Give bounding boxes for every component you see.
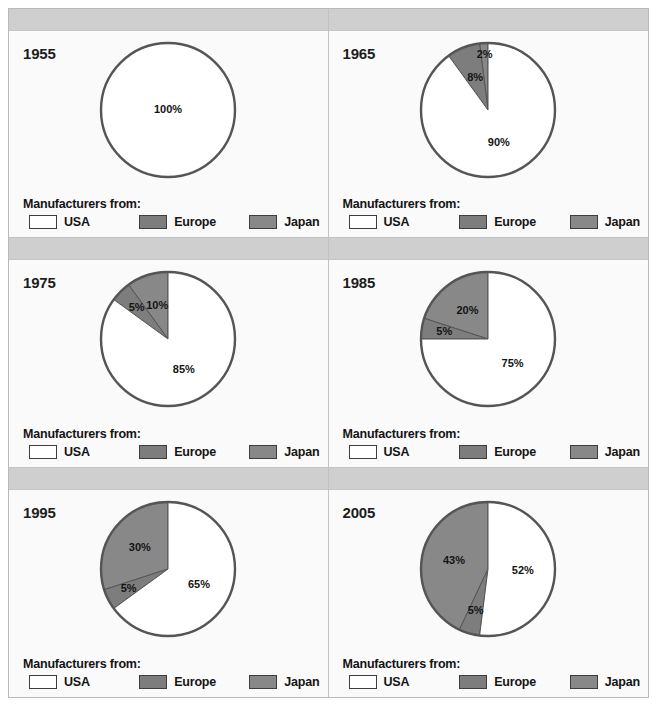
svg-text:10%: 10%: [146, 299, 168, 311]
legend-label-europe: Europe: [174, 215, 216, 229]
pie-chart-1955: 100%: [93, 35, 243, 185]
legend: Manufacturers from: USA Europe Japan: [343, 427, 641, 459]
panel-1965: 1965 2%8%90% Manufacturers from: USA Eur…: [329, 9, 649, 238]
legend: Manufacturers from: USA Europe Japan: [23, 197, 320, 229]
legend: Manufacturers from: USA Europe Japan: [343, 657, 641, 689]
panel-grid: 1955 100% Manufacturers from: USA Europe: [8, 8, 649, 698]
legend-label-usa: USA: [64, 675, 90, 689]
panel-header: [9, 468, 328, 490]
panel-body: 1965 2%8%90% Manufacturers from: USA Eur…: [329, 31, 649, 237]
legend-item-japan: Japan: [249, 215, 319, 229]
legend-label-europe: Europe: [174, 445, 216, 459]
legend-row: USA Europe Japan: [23, 215, 320, 229]
svg-text:75%: 75%: [502, 357, 524, 369]
panel-2005: 2005 43%5%52% Manufacturers from: USA Eu…: [329, 468, 649, 697]
legend-item-usa: USA: [349, 445, 460, 459]
legend-row: USA Europe Japan: [343, 675, 641, 689]
pie-chart-1975: 10%5%85%: [93, 264, 243, 414]
pie-chart-1995: 30%5%65%: [93, 494, 243, 644]
legend-item-europe: Europe: [459, 675, 570, 689]
svg-text:90%: 90%: [488, 136, 510, 148]
panel-1955: 1955 100% Manufacturers from: USA Europe: [9, 9, 329, 238]
panel-year-label: 1955: [23, 45, 56, 62]
panel-year-label: 1995: [23, 504, 56, 521]
legend-label-usa: USA: [64, 445, 90, 459]
legend-swatch-usa: [349, 445, 377, 459]
legend-item-japan: Japan: [249, 675, 319, 689]
legend-swatch-usa: [349, 675, 377, 689]
pie-chart-1985: 20%5%75%: [413, 264, 563, 414]
legend-title: Manufacturers from:: [343, 197, 641, 211]
legend-item-usa: USA: [29, 215, 139, 229]
legend-label-europe: Europe: [494, 445, 536, 459]
legend-item-europe: Europe: [139, 215, 249, 229]
legend-swatch-europe: [139, 215, 167, 229]
legend-label-japan: Japan: [284, 215, 319, 229]
legend-swatch-usa: [29, 445, 57, 459]
svg-text:2%: 2%: [477, 48, 493, 60]
legend-item-usa: USA: [29, 445, 139, 459]
legend-label-japan: Japan: [284, 445, 319, 459]
legend: Manufacturers from: USA Europe Japan: [23, 657, 320, 689]
legend: Manufacturers from: USA Europe Japan: [23, 427, 320, 459]
svg-text:52%: 52%: [512, 564, 534, 576]
svg-text:5%: 5%: [437, 325, 453, 337]
legend-label-usa: USA: [64, 215, 90, 229]
legend-item-europe: Europe: [459, 215, 570, 229]
panel-year-label: 1985: [343, 274, 376, 291]
legend-item-europe: Europe: [139, 445, 249, 459]
legend-item-japan: Japan: [570, 215, 640, 229]
panel-year-label: 1965: [343, 45, 376, 62]
legend-swatch-usa: [29, 675, 57, 689]
legend-swatch-japan: [249, 215, 277, 229]
svg-text:20%: 20%: [457, 304, 479, 316]
legend-item-usa: USA: [349, 675, 460, 689]
panel-body: 1995 30%5%65% Manufacturers from: USA Eu…: [9, 490, 328, 697]
panel-body: 1955 100% Manufacturers from: USA Europe: [9, 31, 328, 237]
legend-swatch-usa: [29, 215, 57, 229]
svg-text:43%: 43%: [443, 554, 465, 566]
legend-swatch-europe: [139, 445, 167, 459]
legend-row: USA Europe Japan: [343, 445, 641, 459]
legend-row: USA Europe Japan: [23, 445, 320, 459]
panel-header: [9, 9, 328, 31]
legend-item-europe: Europe: [459, 445, 570, 459]
panel-1995: 1995 30%5%65% Manufacturers from: USA Eu…: [9, 468, 329, 697]
panel-1985: 1985 20%5%75% Manufacturers from: USA Eu…: [329, 238, 649, 467]
legend-item-japan: Japan: [249, 445, 319, 459]
legend-swatch-japan: [570, 445, 598, 459]
panel-header: [9, 238, 328, 260]
legend-item-japan: Japan: [570, 445, 640, 459]
legend-label-japan: Japan: [605, 215, 640, 229]
legend-label-japan: Japan: [284, 675, 319, 689]
legend-title: Manufacturers from:: [23, 427, 320, 441]
svg-text:65%: 65%: [188, 577, 210, 589]
panel-body: 1975 10%5%85% Manufacturers from: USA Eu…: [9, 260, 328, 466]
figure-root: 1955 100% Manufacturers from: USA Europe: [0, 0, 657, 716]
legend-swatch-japan: [570, 675, 598, 689]
svg-text:8%: 8%: [467, 71, 483, 83]
legend-swatch-europe: [459, 215, 487, 229]
legend-swatch-usa: [349, 215, 377, 229]
legend-swatch-europe: [459, 445, 487, 459]
legend-title: Manufacturers from:: [23, 657, 320, 671]
legend-label-usa: USA: [384, 675, 410, 689]
panel-body: 1985 20%5%75% Manufacturers from: USA Eu…: [329, 260, 649, 466]
legend-title: Manufacturers from:: [343, 657, 641, 671]
legend-item-japan: Japan: [570, 675, 640, 689]
svg-text:5%: 5%: [468, 604, 484, 616]
panel-year-label: 2005: [343, 504, 376, 521]
legend-swatch-japan: [249, 445, 277, 459]
legend-item-usa: USA: [349, 215, 460, 229]
legend-swatch-europe: [459, 675, 487, 689]
legend-label-japan: Japan: [605, 675, 640, 689]
legend-label-europe: Europe: [494, 675, 536, 689]
panel-header: [329, 468, 649, 490]
legend-title: Manufacturers from:: [23, 197, 320, 211]
panel-1975: 1975 10%5%85% Manufacturers from: USA Eu…: [9, 238, 329, 467]
legend-label-usa: USA: [384, 215, 410, 229]
panel-body: 2005 43%5%52% Manufacturers from: USA Eu…: [329, 490, 649, 697]
svg-text:85%: 85%: [173, 363, 195, 375]
legend-row: USA Europe Japan: [343, 215, 641, 229]
svg-text:5%: 5%: [129, 301, 145, 313]
